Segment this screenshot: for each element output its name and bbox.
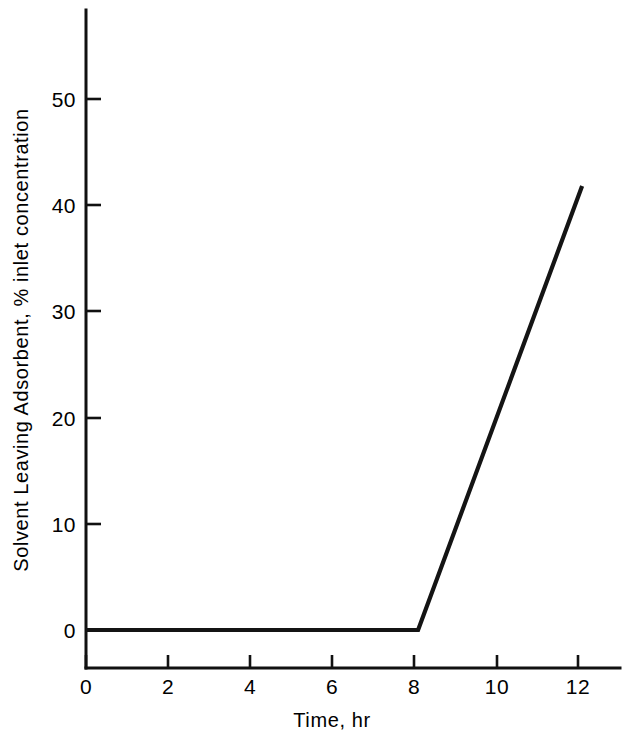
x-tick-marks [86, 655, 578, 668]
y-tick-label-30: 30 [52, 300, 76, 323]
y-axis-title: Solvent Leaving Adsorbent, % inlet conce… [10, 108, 32, 572]
x-tick-label-12: 12 [566, 675, 590, 698]
y-tick-label-0: 0 [64, 619, 76, 642]
data-series-breakthrough-curve [86, 186, 582, 630]
breakthrough-curve-chart: 0 10 20 30 40 50 0 2 4 6 8 10 12 Time, h… [0, 0, 632, 754]
y-tick-label-40: 40 [52, 194, 76, 217]
y-tick-labels: 0 10 20 30 40 50 [52, 88, 76, 642]
x-tick-labels: 0 2 4 6 8 10 12 [80, 675, 590, 698]
y-tick-label-50: 50 [52, 88, 76, 111]
x-tick-label-4: 4 [244, 675, 256, 698]
x-axis-title: Time, hr [293, 709, 370, 731]
x-tick-label-6: 6 [326, 675, 338, 698]
x-tick-label-8: 8 [408, 675, 420, 698]
y-tick-label-20: 20 [52, 407, 76, 430]
x-tick-label-10: 10 [485, 675, 509, 698]
y-tick-marks [86, 99, 101, 630]
figure-container: 0 10 20 30 40 50 0 2 4 6 8 10 12 Time, h… [0, 0, 632, 754]
y-tick-label-10: 10 [52, 513, 76, 536]
x-tick-label-0: 0 [80, 675, 92, 698]
x-tick-label-2: 2 [162, 675, 174, 698]
